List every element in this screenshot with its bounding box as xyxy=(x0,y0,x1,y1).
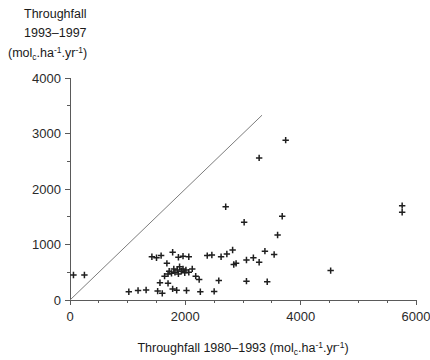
data-point-marker xyxy=(189,266,195,272)
data-point-marker xyxy=(169,249,175,255)
data-point-marker xyxy=(216,277,222,283)
svg-text:1993–1997: 1993–1997 xyxy=(24,26,87,40)
svg-text:Throughfall: Throughfall xyxy=(24,7,87,21)
data-point-marker xyxy=(183,287,189,293)
y-axis-tick-label: 0 xyxy=(54,293,61,308)
y-axis-tick-label: 4000 xyxy=(32,71,61,86)
data-point-marker xyxy=(243,278,249,284)
data-point-marker xyxy=(149,254,155,260)
data-point-marker xyxy=(399,209,405,215)
data-point-marker xyxy=(126,288,132,294)
data-point-marker xyxy=(250,255,256,261)
one-to-one-reference-line xyxy=(70,115,262,300)
data-point-marker xyxy=(180,253,186,259)
data-point-marker xyxy=(241,219,247,225)
data-point-marker xyxy=(70,272,76,278)
y-axis-unit-mid2: .yr xyxy=(62,46,76,60)
x-axis-label-mid2: .yr xyxy=(323,341,337,355)
data-point-marker xyxy=(143,287,149,293)
x-axis-label-prefix: Throughfall 1980–1993 (mol xyxy=(137,341,293,355)
data-point-marker xyxy=(229,247,235,253)
data-point-marker xyxy=(169,286,175,292)
data-point-marker xyxy=(218,254,224,260)
x-axis-tick-label: 2000 xyxy=(171,309,200,324)
x-axis-tick-label: 6000 xyxy=(402,309,430,324)
data-point-marker xyxy=(193,273,199,279)
y-axis-tick-label: 2000 xyxy=(32,182,61,197)
data-point-marker xyxy=(282,137,288,143)
y-axis-label-line2: 1993–1997 xyxy=(24,26,87,40)
data-point-marker xyxy=(399,202,405,208)
y-axis-label: Throughfall 1993–1997 (molc.ha-1.yr-1) xyxy=(8,7,87,62)
data-point-marker xyxy=(223,204,229,210)
data-point-marker xyxy=(197,288,203,294)
data-point-marker xyxy=(211,288,217,294)
data-point-group xyxy=(70,137,405,297)
x-axis-label: Throughfall 1980–1993 (molc.ha-1.yr-1) xyxy=(137,340,348,357)
x-axis-label-suffix: ) xyxy=(344,341,348,355)
data-point-marker xyxy=(271,251,277,257)
y-axis-unit-prefix: (mol xyxy=(8,46,32,60)
x-axis-tick-label: 0 xyxy=(66,309,73,324)
data-point-marker xyxy=(279,213,285,219)
data-point-marker xyxy=(196,276,202,282)
svg-text:(molc.ha-1.yr-1): (molc.ha-1.yr-1) xyxy=(8,45,87,62)
y-axis-tick-label: 3000 xyxy=(32,126,61,141)
data-point-marker xyxy=(81,272,87,278)
data-point-marker xyxy=(135,287,141,293)
data-point-marker xyxy=(256,155,262,161)
data-point-marker xyxy=(173,287,179,293)
y-axis-unit-mid: .ha xyxy=(37,46,54,60)
svg-text:Throughfall 1980–1993 (molc.ha: Throughfall 1980–1993 (molc.ha-1.yr-1) xyxy=(137,340,348,357)
y-axis-tick-label: 1000 xyxy=(32,237,61,252)
data-point-marker xyxy=(274,232,280,238)
data-point-marker xyxy=(165,280,171,286)
y-axis-unit-suffix: ) xyxy=(83,46,87,60)
data-point-marker xyxy=(327,267,333,273)
data-point-marker xyxy=(157,280,163,286)
axis-spines xyxy=(70,78,416,300)
data-point-marker xyxy=(209,252,215,258)
scatter-plot-figure: Throughfall 1993–1997 (molc.ha-1.yr-1) 0… xyxy=(0,0,430,360)
data-point-marker xyxy=(224,251,230,257)
data-point-marker xyxy=(186,254,192,260)
data-point-marker xyxy=(175,254,181,260)
plot-area: 010002000300040000200040006000 xyxy=(32,71,430,325)
x-axis-tick-label: 4000 xyxy=(286,309,315,324)
data-point-marker xyxy=(164,260,170,266)
data-point-marker xyxy=(262,248,268,254)
x-axis-label-mid: .ha xyxy=(298,341,315,355)
data-point-marker xyxy=(256,259,262,265)
y-axis-label-line1: Throughfall xyxy=(24,7,87,21)
data-point-marker xyxy=(243,257,249,263)
data-point-marker xyxy=(264,278,270,284)
